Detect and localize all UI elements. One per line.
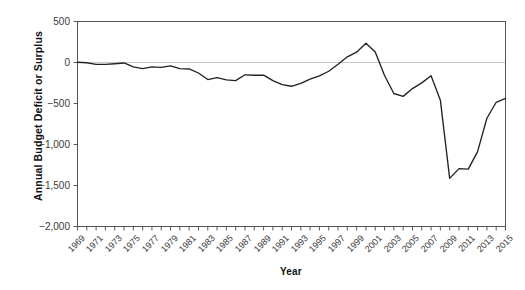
x-axis-tick-labels: 1969197119731975197719791981198319851987…: [0, 0, 525, 290]
x-axis-title: Year: [77, 266, 505, 277]
budget-deficit-chart: Annual Budget Deficit or Surplus 5000−50…: [0, 0, 525, 290]
